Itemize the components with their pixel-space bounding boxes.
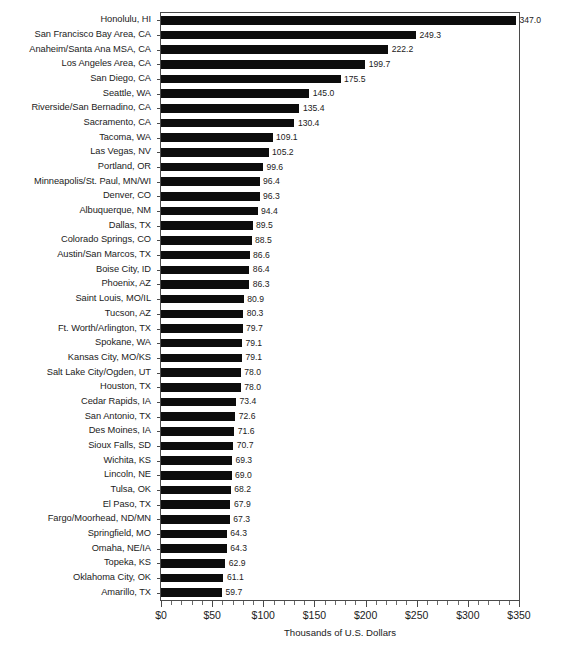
x-minor-tick	[284, 601, 285, 605]
category-label: Cedar Rapids, IA	[81, 396, 151, 406]
category-label: Austin/San Marcos, TX	[57, 249, 151, 259]
x-minor-tick	[345, 601, 346, 605]
category-label-row: Wichita, KS	[0, 452, 155, 467]
bar-value-label: 96.3	[263, 192, 280, 201]
category-label: Ft. Worth/Arlington, TX	[58, 323, 151, 333]
category-tick	[157, 431, 161, 432]
bar	[161, 133, 273, 142]
bar	[161, 104, 299, 113]
bar-row: 70.7	[161, 439, 519, 454]
category-label: Portland, OR	[98, 161, 151, 171]
bar-row: 80.9	[161, 292, 519, 307]
bar-value-label: 67.9	[234, 500, 251, 509]
bar-row: 79.1	[161, 351, 519, 366]
bar	[161, 383, 241, 392]
bar-value-label: 135.4	[303, 104, 325, 113]
bar	[161, 471, 232, 480]
x-minor-tick	[499, 601, 500, 605]
bar-value-label: 80.9	[247, 295, 264, 304]
x-minor-tick	[406, 601, 407, 605]
category-label: Spokane, WA	[95, 337, 151, 347]
bar-row: 222.2	[161, 42, 519, 57]
bar	[161, 324, 243, 333]
bar-row: 64.3	[161, 541, 519, 556]
category-label-row: Denver, CO	[0, 188, 155, 203]
category-label-row: Riverside/San Bernadino, CA	[0, 100, 155, 115]
bar-row: 80.3	[161, 307, 519, 322]
bar-value-label: 64.3	[230, 544, 247, 553]
x-major-tick	[519, 601, 520, 607]
bar	[161, 280, 249, 289]
bar-value-label: 86.6	[253, 251, 270, 260]
category-label-row: Austin/San Marcos, TX	[0, 247, 155, 262]
category-tick	[157, 255, 161, 256]
bar-row: 109.1	[161, 130, 519, 145]
x-minor-tick	[355, 601, 356, 605]
category-tick	[157, 314, 161, 315]
bar	[161, 60, 365, 69]
bar	[161, 177, 260, 186]
bar-row: 61.1	[161, 571, 519, 586]
category-label: Omaha, NE/IA	[92, 543, 151, 553]
category-label-row: Lincoln, NE	[0, 467, 155, 482]
category-label: San Antonio, TX	[85, 411, 151, 421]
category-label-row: Oklahoma City, OK	[0, 570, 155, 585]
x-minor-tick	[181, 601, 182, 605]
category-label-row: Amarillo, TX	[0, 584, 155, 599]
bar	[161, 163, 263, 172]
category-tick	[157, 240, 161, 241]
category-tick	[157, 123, 161, 124]
category-label-row: Des Moines, IA	[0, 423, 155, 438]
category-tick	[157, 358, 161, 359]
category-label: Boise City, ID	[96, 264, 151, 274]
bar	[161, 45, 388, 54]
bar-value-label: 68.2	[234, 485, 251, 494]
bar-value-label: 72.6	[239, 412, 256, 421]
category-label-row: Seattle, WA	[0, 85, 155, 100]
category-tick	[157, 373, 161, 374]
bar-value-label: 88.5	[255, 236, 272, 245]
category-tick	[157, 387, 161, 388]
bar-row: 69.3	[161, 453, 519, 468]
bar-value-label: 79.1	[245, 353, 262, 362]
category-tick	[157, 402, 161, 403]
bar-value-label: 78.0	[244, 383, 261, 392]
bar-row: 62.9	[161, 556, 519, 571]
bar	[161, 442, 233, 451]
category-label-row: Las Vegas, NV	[0, 144, 155, 159]
category-label: Wichita, KS	[104, 455, 152, 465]
category-label-row: San Francisco Bay Area, CA	[0, 27, 155, 42]
bar-row: 78.0	[161, 380, 519, 395]
category-label: Anaheim/Santa Ana MSA, CA	[29, 44, 151, 54]
category-label: Denver, CO	[103, 190, 151, 200]
category-tick	[157, 182, 161, 183]
bar	[161, 486, 231, 495]
category-label-row: Minneapolis/St. Paul, MN/WI	[0, 173, 155, 188]
x-tick-label: $50	[203, 609, 221, 621]
x-minor-tick	[488, 601, 489, 605]
bar	[161, 339, 242, 348]
x-minor-tick	[171, 601, 172, 605]
bar-row: 347.0	[161, 13, 519, 28]
category-label-row: Honolulu, HI	[0, 12, 155, 27]
bar-value-label: 61.1	[227, 573, 244, 582]
bar	[161, 192, 260, 201]
bar-value-label: 109.1	[276, 133, 298, 142]
category-tick	[157, 64, 161, 65]
category-tick	[157, 343, 161, 344]
bar	[161, 119, 294, 128]
bar-value-label: 145.0	[313, 89, 335, 98]
bar	[161, 266, 249, 275]
bar	[161, 398, 236, 407]
category-tick	[157, 50, 161, 51]
bar-value-label: 130.4	[298, 119, 320, 128]
category-label: El Paso, TX	[103, 499, 151, 509]
x-axis-title: Thousands of U.S. Dollars	[160, 627, 520, 638]
bar	[161, 530, 227, 539]
category-tick	[157, 519, 161, 520]
category-tick	[157, 138, 161, 139]
category-label: Las Vegas, NV	[90, 146, 151, 156]
bar-row: 67.3	[161, 512, 519, 527]
category-axis: Honolulu, HISan Francisco Bay Area, CAAn…	[0, 12, 155, 601]
x-minor-tick	[222, 601, 223, 605]
